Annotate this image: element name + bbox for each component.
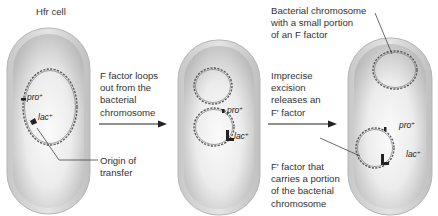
bacterial-chromosome-label: Bacterial chromosome with a small portio… [271, 5, 366, 42]
gene-label-pro: pro+ [227, 105, 243, 115]
f-prime-factor-label: F′ factor that carries a portion of the … [271, 161, 340, 210]
origin-of-transfer-label: Origin of transfer [100, 155, 136, 179]
gene-label-pro: pro+ [399, 120, 415, 130]
gene-label-lac: lac+ [234, 131, 248, 141]
gene-label-lac: lac+ [406, 149, 420, 159]
looping-cell [178, 40, 260, 215]
diagram-canvas [0, 0, 438, 216]
f-prime-cell [348, 38, 432, 215]
step-1-label: F factor loops out from the bacterial ch… [100, 70, 158, 119]
gene-label-pro: pro+ [27, 92, 43, 102]
hfr-cell-title: Hfr cell [36, 6, 66, 18]
step-2-label: Imprecise excision releases an F′ factor [271, 70, 321, 119]
gene-label-lac: lac+ [38, 112, 52, 122]
